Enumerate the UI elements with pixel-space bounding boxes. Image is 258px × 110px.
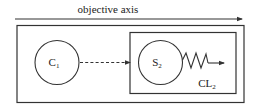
node-c1-label: C1 <box>49 56 60 70</box>
node-s2-label: S2 <box>152 56 162 70</box>
zigzag-spring-icon <box>183 53 209 68</box>
cl2-group-label: CL2 <box>198 77 216 91</box>
diagram-canvas: objective axis C1 S2 CL2 <box>0 0 258 110</box>
axis-label: objective axis <box>78 3 139 15</box>
